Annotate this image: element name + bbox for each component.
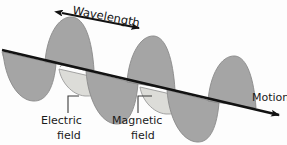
motion-label: Motion [252, 91, 287, 104]
electric-field-label-line1: Electric [41, 114, 82, 127]
magnetic-field-label-line2: field [131, 129, 155, 142]
electric-leader-line [68, 96, 79, 113]
diagram-canvas: Wavelength Electric field Magnetic field… [0, 0, 287, 145]
electromagnetic-wave-figure: Wavelength Electric field Magnetic field… [0, 0, 287, 145]
magnetic-field-label-line1: Magnetic [112, 114, 162, 127]
electric-field-label-line2: field [57, 129, 81, 142]
